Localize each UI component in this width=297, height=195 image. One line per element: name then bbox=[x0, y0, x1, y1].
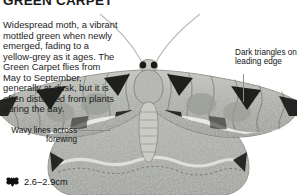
field-guide-page: GREEN CARPET Widespread moth, a vibrant … bbox=[0, 0, 297, 195]
page-title: GREEN CARPET bbox=[3, 0, 113, 7]
size-caption: 2.6–2.9cm bbox=[6, 177, 68, 187]
callout-dark-triangles: Dark triangles on leading edge bbox=[235, 48, 297, 67]
callout-wavy-lines: Wavy lines across forewing bbox=[0, 126, 77, 145]
size-value: 2.6–2.9cm bbox=[24, 177, 68, 187]
leader-line-wavy-lines bbox=[78, 130, 111, 131]
description-text: Widespread moth, a vibrant mottled green… bbox=[3, 20, 119, 114]
moth-silhouette-icon bbox=[6, 177, 19, 187]
leader-line-dark-triangles bbox=[243, 74, 244, 102]
